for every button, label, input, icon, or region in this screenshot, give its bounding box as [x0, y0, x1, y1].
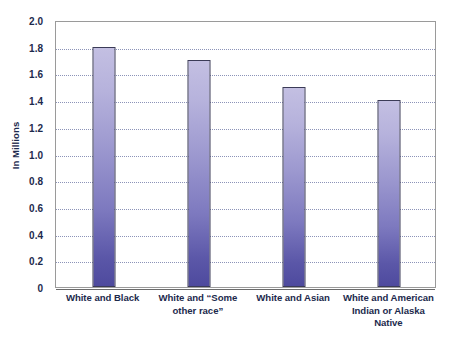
axis-baseline — [56, 289, 435, 290]
y-axis-tick-label: 0 — [37, 283, 43, 294]
x-axis-label-line: Indian or Alaska — [335, 305, 442, 318]
bar[interactable] — [187, 60, 210, 287]
x-axis-label-line: White and Asian — [240, 292, 347, 305]
y-axis-tick-label: 0.2 — [29, 256, 43, 267]
y-axis-tick-label: 1.2 — [29, 122, 43, 133]
bar-slot — [56, 22, 151, 287]
y-axis-tick-label: 1.6 — [29, 69, 43, 80]
y-axis-tick-label: 1.0 — [29, 149, 43, 160]
y-axis-tick-label: 0.8 — [29, 176, 43, 187]
bar[interactable] — [378, 100, 401, 287]
bar-slot — [247, 22, 342, 287]
bar-slot — [342, 22, 437, 287]
bar-slot — [151, 22, 246, 287]
plot-area — [55, 21, 436, 288]
x-axis-category-label: White and Asian — [240, 292, 347, 305]
bar-chart: In Millions 2.01.81.61.41.21.00.80.60.40… — [0, 0, 451, 346]
y-axis-tick-labels: 2.01.81.61.41.21.00.80.60.40.20 — [0, 21, 50, 288]
bars-layer — [56, 22, 435, 287]
y-axis-tick-label: 0.6 — [29, 202, 43, 213]
x-axis-label-line: Native — [335, 317, 442, 330]
x-axis-label-line: White and American — [335, 292, 442, 305]
x-axis-category-label: White and AmericanIndian or AlaskaNative — [335, 292, 442, 330]
x-axis-category-labels: White and BlackWhite and “Someother race… — [55, 292, 436, 346]
x-axis-label-line: other race” — [144, 305, 251, 318]
bar[interactable] — [92, 47, 115, 287]
x-axis-label-line: White and “Some — [144, 292, 251, 305]
y-axis-tick-label: 2.0 — [29, 16, 43, 27]
y-axis-tick-label: 1.4 — [29, 96, 43, 107]
y-axis-tick-label: 0.4 — [29, 229, 43, 240]
y-axis-tick-label: 1.8 — [29, 42, 43, 53]
x-axis-category-label: White and Black — [49, 292, 156, 305]
bar[interactable] — [283, 87, 306, 287]
x-axis-label-line: White and Black — [49, 292, 156, 305]
x-axis-category-label: White and “Someother race” — [144, 292, 251, 317]
